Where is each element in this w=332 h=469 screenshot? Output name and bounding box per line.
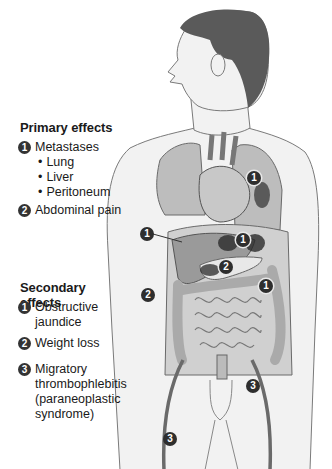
number-badge-icon: 1	[18, 301, 31, 314]
subitem-lung: Lung	[38, 155, 74, 170]
marker-right-vein-3: 3	[163, 432, 177, 446]
number-badge-icon: 1	[18, 141, 31, 154]
item-label: Abdominal pain	[35, 203, 121, 218]
item-label: Migratory thrombophlebitis (paraneoplast…	[35, 362, 127, 422]
lung-lesion	[254, 182, 270, 208]
item-label: Weight loss	[35, 336, 99, 351]
ear	[211, 54, 225, 76]
secondary-item-jaundice: 1 Obstructive jaundice	[18, 300, 98, 330]
marker-pancreas-2: 2	[219, 260, 233, 274]
subitem-peritoneum: Peritoneum	[38, 185, 110, 200]
pancreas-lesion	[200, 264, 220, 276]
item-label: Obstructive jaundice	[35, 300, 98, 330]
marker-liver-1: 1	[140, 227, 154, 241]
primary-effects-heading: Primary effects	[20, 120, 112, 135]
legend-panel: Primary effects 1 Metastases Lung Liver …	[0, 0, 130, 469]
marker-lung-1: 1	[247, 171, 261, 185]
marker-left-vein-3: 3	[246, 379, 260, 393]
number-badge-icon: 2	[18, 204, 31, 217]
secondary-item-thrombophlebitis: 3 Migratory thrombophlebitis (paraneopla…	[18, 362, 127, 422]
number-badge-icon: 2	[18, 337, 31, 350]
item-label: Metastases	[35, 140, 99, 155]
liver-lesion	[218, 235, 238, 251]
marker-upper-abdomen-1: 1	[236, 233, 250, 247]
subitem-liver: Liver	[38, 170, 73, 185]
primary-item-metastases: 1 Metastases	[18, 140, 99, 155]
rectum	[217, 355, 227, 379]
marker-flank-2: 2	[141, 288, 155, 302]
marker-peritoneum-1: 1	[259, 279, 273, 293]
secondary-item-weight-loss: 2 Weight loss	[18, 336, 99, 351]
primary-item-abdominal-pain: 2 Abdominal pain	[18, 203, 121, 218]
number-badge-icon: 3	[18, 363, 31, 376]
